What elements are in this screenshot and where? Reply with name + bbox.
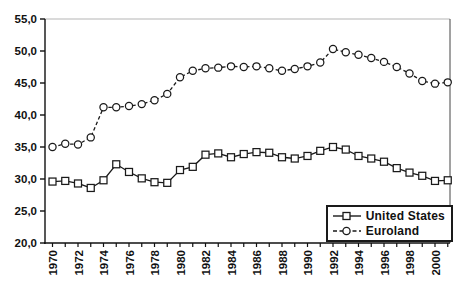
y-tick-label: 35,0: [15, 141, 37, 153]
circle-marker-icon: [342, 49, 349, 56]
legend-label-euroland: Euroland: [366, 224, 420, 238]
y-tick-label: 40,0: [15, 109, 37, 121]
x-tick-label: 1978: [149, 249, 161, 275]
x-tick-label: 1992: [328, 250, 340, 276]
square-marker-icon: [355, 152, 362, 159]
x-tick-label: 1986: [251, 250, 263, 276]
square-marker-icon: [62, 177, 69, 184]
square-marker-icon: [189, 163, 196, 170]
legend-label-united-states: United States: [366, 209, 445, 223]
square-marker-icon: [266, 149, 273, 156]
series-line-united-states: [53, 147, 448, 188]
square-marker-icon: [138, 175, 145, 182]
circle-marker-icon: [49, 143, 56, 150]
square-marker-icon: [342, 146, 349, 153]
square-marker-icon: [368, 155, 375, 162]
circle-marker-icon: [304, 63, 311, 70]
y-tick-label: 50,0: [15, 45, 37, 57]
circle-marker-icon: [317, 59, 324, 66]
x-tick-label: 1974: [98, 249, 110, 275]
y-tick-label: 55,0: [15, 13, 37, 25]
circle-marker-icon: [62, 140, 69, 147]
square-marker-icon: [432, 177, 439, 184]
series-united-states: [49, 144, 451, 192]
circle-marker-icon: [332, 226, 362, 236]
x-tick-label: 1976: [124, 250, 136, 276]
square-marker-icon: [279, 154, 286, 161]
circle-marker-icon: [189, 67, 196, 74]
square-marker-icon: [87, 184, 94, 191]
circle-marker-icon: [74, 141, 81, 148]
x-tick-label: 1980: [175, 250, 187, 276]
legend-item-euroland: Euroland: [332, 223, 445, 238]
x-tick-label: 1994: [353, 249, 365, 275]
circle-marker-icon: [444, 79, 451, 86]
circle-marker-icon: [253, 63, 260, 70]
circle-marker-icon: [393, 63, 400, 70]
x-tick-label: 1988: [277, 249, 289, 275]
square-marker-icon: [332, 211, 362, 221]
circle-marker-icon: [329, 45, 336, 52]
circle-marker-icon: [266, 65, 273, 72]
square-marker-icon: [317, 147, 324, 154]
series-euroland: [49, 45, 451, 150]
square-marker-icon: [228, 154, 235, 161]
x-tick-label: 1982: [200, 250, 212, 276]
circle-marker-icon: [138, 101, 145, 108]
y-tick-label: 30,0: [15, 173, 37, 185]
legend: United States Euroland: [326, 205, 453, 242]
square-marker-icon: [215, 150, 222, 157]
circle-marker-icon: [151, 97, 158, 104]
square-marker-icon: [419, 172, 426, 179]
circle-marker-icon: [164, 90, 171, 97]
x-tick-label: 1972: [73, 250, 85, 276]
circle-marker-icon: [368, 54, 375, 61]
y-tick-label: 45,0: [15, 77, 37, 89]
circle-marker-icon: [431, 80, 438, 87]
square-marker-icon: [393, 165, 400, 172]
x-axis-labels: 1970197219741976197819801982198419861988…: [47, 243, 448, 276]
circle-marker-icon: [380, 58, 387, 65]
circle-marker-icon: [406, 70, 413, 77]
x-tick-label: 1970: [47, 250, 59, 276]
square-marker-icon: [113, 161, 120, 168]
x-tick-label: 1990: [302, 250, 314, 276]
circle-marker-icon: [87, 134, 94, 141]
square-marker-icon: [444, 177, 451, 184]
square-marker-icon: [164, 179, 171, 186]
circle-marker-icon: [100, 104, 107, 111]
square-marker-icon: [49, 178, 56, 185]
circle-marker-icon: [202, 65, 209, 72]
square-marker-icon: [177, 167, 184, 174]
square-marker-icon: [406, 169, 413, 176]
line-chart: 20,025,030,035,040,045,050,055,019701972…: [0, 0, 457, 289]
y-tick-label: 25,0: [15, 205, 37, 217]
legend-item-united-states: United States: [332, 208, 445, 223]
series-line-euroland: [53, 49, 448, 147]
x-tick-label: 1984: [226, 249, 238, 275]
chart-container: 20,025,030,035,040,045,050,055,019701972…: [0, 0, 457, 289]
x-tick-label: 1996: [379, 250, 391, 276]
square-marker-icon: [100, 177, 107, 184]
square-marker-icon: [126, 168, 133, 175]
square-marker-icon: [75, 180, 82, 187]
circle-marker-icon: [215, 64, 222, 71]
circle-marker-icon: [240, 63, 247, 70]
square-marker-icon: [291, 155, 298, 162]
square-marker-icon: [304, 152, 311, 159]
circle-marker-icon: [113, 104, 120, 111]
x-tick-label: 2000: [430, 250, 442, 276]
square-marker-icon: [202, 151, 209, 158]
circle-marker-icon: [176, 74, 183, 81]
circle-marker-icon: [125, 102, 132, 109]
square-marker-icon: [253, 149, 260, 156]
x-tick-label: 1998: [404, 249, 416, 275]
circle-marker-icon: [419, 77, 426, 84]
circle-marker-icon: [355, 51, 362, 58]
square-marker-icon: [330, 144, 337, 151]
square-marker-icon: [151, 179, 158, 186]
square-marker-icon: [381, 158, 388, 165]
circle-marker-icon: [278, 67, 285, 74]
circle-marker-icon: [291, 65, 298, 72]
square-marker-icon: [240, 151, 247, 158]
